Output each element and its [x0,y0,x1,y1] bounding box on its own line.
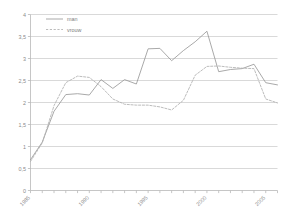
y-axis-tick-label: 1 [23,144,26,150]
gridlines [31,15,278,169]
x-axis-tick-label: 1995 [136,194,149,207]
line-chart: 00,511,522,533,54 19851990199520002005 m… [0,0,287,218]
y-axis-tick-label: 3,5 [19,34,27,40]
y-axis-tick-label: 0,5 [19,166,27,172]
legend-label-man: man [67,16,78,22]
x-axis-tick-label: 1985 [18,194,31,207]
legend-label-vrouw: vrouw [67,27,81,33]
x-axis-tick-labels: 19851990199520002005 [18,194,266,207]
y-axis-tick-label: 4 [23,12,26,18]
x-axis-tick-label: 2000 [195,194,208,207]
chart-legend: manvrouw [46,16,81,33]
y-axis-tick-label: 3 [23,56,26,62]
y-axis-tick-label: 1,5 [19,122,27,128]
x-axis-tick-label: 2005 [254,194,267,207]
data-series [31,31,278,161]
chart-container: 00,511,522,533,54 19851990199520002005 m… [0,0,287,218]
y-axis-tick-label: 0 [23,188,26,194]
series-line-man [31,31,278,159]
y-axis-tick-label: 2 [23,100,26,106]
x-axis-tick-label: 1990 [77,194,90,207]
y-axis-tick-labels: 00,511,522,533,54 [19,12,27,194]
y-axis-tick-label: 2,5 [19,78,27,84]
